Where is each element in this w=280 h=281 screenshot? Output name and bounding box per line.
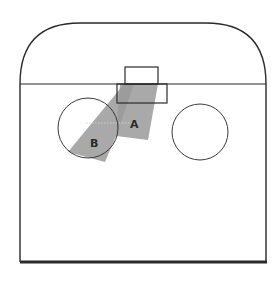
right-circle xyxy=(172,104,228,160)
room-outline xyxy=(20,23,266,262)
upper-box xyxy=(125,67,158,84)
shaded-regions xyxy=(68,84,158,162)
label-b: B xyxy=(90,137,98,150)
room-diagram: A B xyxy=(0,0,280,281)
label-a: A xyxy=(130,118,139,131)
